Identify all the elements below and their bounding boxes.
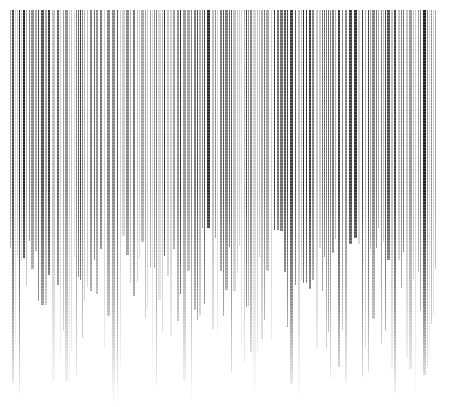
stripe (158, 10, 161, 300)
vertical-stripe-field (10, 10, 436, 405)
stripe (65, 10, 68, 382)
stripe (104, 10, 105, 348)
stripe (26, 10, 27, 286)
stripe (199, 10, 201, 315)
stripe (342, 10, 343, 330)
stripe (261, 10, 263, 339)
stripe (41, 10, 44, 305)
stripe (368, 10, 369, 372)
stripe (372, 10, 375, 319)
stripe (177, 10, 179, 321)
stripe (38, 10, 39, 301)
stripe (253, 10, 256, 393)
stripe (10, 10, 11, 248)
stripe (130, 10, 131, 283)
stripe (413, 10, 414, 279)
stripe (383, 10, 384, 242)
stripe (264, 10, 265, 320)
stripe (303, 10, 304, 283)
stripe (154, 10, 155, 268)
stripe (246, 10, 247, 307)
stripe (147, 10, 148, 308)
stripe (167, 10, 169, 276)
stripe (141, 10, 144, 242)
stripe (76, 10, 77, 375)
stripe (197, 10, 198, 320)
stripe (162, 10, 163, 332)
stripe (387, 10, 390, 260)
stripe (63, 10, 64, 331)
stripe (244, 10, 245, 362)
stripe (287, 10, 288, 327)
stripe (316, 10, 318, 349)
stripe (122, 10, 125, 236)
stripe (15, 10, 16, 344)
stripe (345, 10, 347, 383)
stripe (183, 10, 186, 381)
stripe (96, 10, 98, 294)
stripe (326, 10, 327, 349)
stripe (87, 10, 88, 287)
stripe (330, 10, 331, 377)
stripe (277, 10, 279, 230)
stripe (324, 10, 325, 257)
stripe (212, 10, 214, 329)
stripe (45, 10, 47, 305)
stripe (17, 10, 18, 255)
stripe (194, 10, 196, 310)
stripe (29, 10, 30, 241)
stripe (391, 10, 393, 369)
stripe (362, 10, 363, 377)
stripe (233, 10, 236, 291)
stripe (271, 10, 272, 340)
stripe (133, 10, 135, 296)
stripe (69, 10, 70, 387)
stripe (173, 10, 175, 249)
stripe (207, 10, 210, 228)
stripe (365, 10, 366, 348)
stripe (229, 10, 230, 247)
stripe (335, 10, 336, 239)
stripe (370, 10, 371, 249)
stripe (319, 10, 321, 248)
stripe (420, 10, 421, 311)
stripe (250, 10, 252, 352)
stripe (376, 10, 377, 248)
stripe (385, 10, 386, 330)
stripe (274, 10, 275, 230)
stripe (217, 10, 218, 333)
stripe (78, 10, 79, 277)
stripe (306, 10, 307, 283)
stripe (137, 10, 138, 282)
stripe (403, 10, 404, 252)
stripe (309, 10, 311, 289)
stripe (248, 10, 249, 306)
stripe (19, 10, 20, 394)
stripe (280, 10, 283, 231)
stripe (112, 10, 115, 403)
stripe (120, 10, 121, 366)
stripe (139, 10, 140, 259)
stripe (94, 10, 95, 260)
stripe (52, 10, 55, 380)
stripe (82, 10, 83, 338)
stripe (259, 10, 260, 257)
stripe (57, 10, 59, 285)
stripe (409, 10, 412, 369)
stripe (266, 10, 269, 271)
stripe (80, 10, 81, 280)
stripe (170, 10, 172, 336)
stripe (100, 10, 102, 249)
stripe (126, 10, 129, 255)
stripe (71, 10, 72, 351)
stripe (220, 10, 222, 271)
stripe (378, 10, 379, 228)
stripe (48, 10, 50, 275)
stripe (415, 10, 416, 392)
stripe (60, 10, 61, 358)
stripe (231, 10, 232, 372)
stripe (156, 10, 157, 385)
stripe (298, 10, 300, 399)
stripe (381, 10, 382, 344)
stripe (31, 10, 34, 269)
